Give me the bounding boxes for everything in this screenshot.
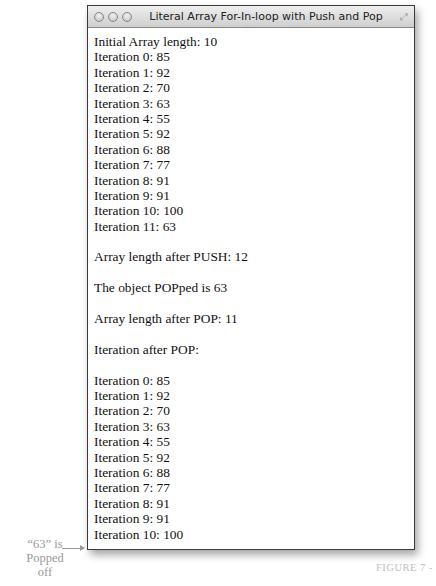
figure-caption: FIGURE 7 -: [376, 562, 433, 573]
iteration-line: Iteration 5: 92: [94, 450, 414, 465]
minimize-button[interactable]: [108, 12, 118, 22]
iteration-line: Iteration 3: 63: [94, 96, 414, 111]
iteration-line: Iteration 11: 63: [94, 219, 414, 234]
annotation-line: off: [20, 565, 70, 579]
close-button[interactable]: [94, 12, 104, 22]
iteration-line: Iteration 8: 91: [94, 496, 414, 511]
iteration-line: Iteration 1: 92: [94, 65, 414, 80]
iteration-line: Iteration 9: 91: [94, 188, 414, 203]
iteration-line: Iteration 0: 85: [94, 373, 414, 388]
first-loop-list: Iteration 0: 85Iteration 1: 92Iteration …: [94, 49, 414, 234]
annotation-line: Popped: [20, 551, 70, 565]
window-title: Literal Array For-In-loop with Push and …: [136, 10, 396, 23]
initial-length-text: Initial Array length: 10: [94, 34, 414, 49]
iteration-line: Iteration 10: 100: [94, 203, 414, 218]
iteration-line: Iteration 6: 88: [94, 142, 414, 157]
iteration-line: Iteration 0: 85: [94, 49, 414, 64]
fullscreen-icon[interactable]: ⤢: [400, 11, 408, 23]
browser-window: Literal Array For-In-loop with Push and …: [87, 5, 415, 550]
page-content: Initial Array length: 10 Iteration 0: 85…: [88, 28, 414, 542]
iteration-line: Iteration 7: 77: [94, 480, 414, 495]
iteration-after-pop-heading: Iteration after POP:: [94, 342, 414, 357]
iteration-line: Iteration 4: 55: [94, 434, 414, 449]
after-pop-text: Array length after POP: 11: [94, 311, 414, 326]
iteration-line: Iteration 5: 92: [94, 126, 414, 141]
iteration-line: Iteration 3: 63: [94, 419, 414, 434]
iteration-line: Iteration 4: 55: [94, 111, 414, 126]
iteration-line: Iteration 6: 88: [94, 465, 414, 480]
arrow-icon: [62, 548, 84, 549]
after-push-text: Array length after PUSH: 12: [94, 249, 414, 264]
iteration-line: Iteration 1: 92: [94, 388, 414, 403]
iteration-line: Iteration 8: 91: [94, 173, 414, 188]
second-loop-list: Iteration 0: 85Iteration 1: 92Iteration …: [94, 373, 414, 542]
iteration-line: Iteration 2: 70: [94, 80, 414, 95]
zoom-button[interactable]: [122, 12, 132, 22]
iteration-line: Iteration 9: 91: [94, 511, 414, 526]
popped-text: The object POPped is 63: [94, 280, 414, 295]
iteration-line: Iteration 10: 100: [94, 527, 414, 542]
iteration-line: Iteration 7: 77: [94, 157, 414, 172]
iteration-line: Iteration 2: 70: [94, 403, 414, 418]
window-controls: [94, 12, 132, 22]
title-bar[interactable]: Literal Array For-In-loop with Push and …: [88, 6, 414, 28]
popped-annotation: “63” is Popped off: [20, 537, 70, 579]
